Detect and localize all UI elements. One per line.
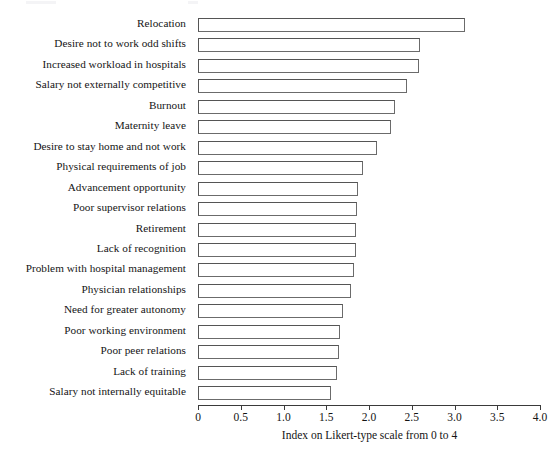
x-tick-label: 2.0 (349, 410, 389, 425)
bar-category-label: Burnout (0, 98, 186, 112)
bar-row: Maternity leave (0, 117, 559, 137)
bar-category-label: Poor supervisor relations (0, 200, 186, 214)
bar-row: Lack of training (0, 363, 559, 383)
bar (198, 366, 337, 380)
bar-row: Burnout (0, 97, 559, 117)
bar (198, 120, 391, 134)
bar-category-label: Physical requirements of job (0, 159, 186, 173)
bar (198, 243, 356, 257)
x-tick-label: 0.5 (221, 410, 261, 425)
bar-row: Physical requirements of job (0, 158, 559, 178)
bar (198, 100, 395, 114)
x-tick-label: 3.5 (477, 410, 517, 425)
x-tick-label: 4.0 (520, 410, 559, 425)
bar-row: Poor peer relations (0, 342, 559, 362)
x-tick-label: 2.5 (392, 410, 432, 425)
bar (198, 182, 358, 196)
bar (198, 263, 354, 277)
bar (198, 161, 363, 175)
bar-category-label: Problem with hospital management (0, 261, 186, 275)
bar (198, 345, 339, 359)
bar-category-label: Poor peer relations (0, 343, 186, 357)
x-tick-label: 1.5 (306, 410, 346, 425)
bar-row: Physician relationships (0, 281, 559, 301)
bar-category-label: Desire not to work odd shifts (0, 36, 186, 50)
bar (198, 141, 377, 155)
bar-category-label: Lack of training (0, 364, 186, 378)
bar (198, 59, 419, 73)
bar-category-label: Advancement opportunity (0, 180, 186, 194)
bar (198, 202, 357, 216)
bar-row: Salary not externally competitive (0, 76, 559, 96)
bar (198, 284, 351, 298)
bar (198, 325, 340, 339)
bar-row: Problem with hospital management (0, 260, 559, 280)
bar-category-label: Salary not internally equitable (0, 384, 186, 398)
bar-row: Lack of recognition (0, 240, 559, 260)
bar (198, 18, 465, 32)
bar-category-label: Poor working environment (0, 323, 186, 337)
bar-category-label: Retirement (0, 221, 186, 235)
bar-row: Need for greater autonomy (0, 301, 559, 321)
x-tick-label: 0 (178, 410, 218, 425)
bar-row: Advancement opportunity (0, 179, 559, 199)
bar-row: Desire to stay home and not work (0, 138, 559, 158)
bar-row: Increased workload in hospitals (0, 56, 559, 76)
bar (198, 386, 331, 400)
bar-category-label: Lack of recognition (0, 241, 186, 255)
bar-category-label: Relocation (0, 16, 186, 30)
bar-row: Relocation (0, 15, 559, 35)
bar-row: Desire not to work odd shifts (0, 35, 559, 55)
bar-row: Poor supervisor relations (0, 199, 559, 219)
scan-artifact (188, 1, 198, 4)
x-tick-label: 3.0 (435, 410, 475, 425)
x-tick-label: 1.0 (264, 410, 304, 425)
horizontal-bar-chart: RelocationDesire not to work odd shiftsI… (0, 0, 559, 460)
bar-row: Poor working environment (0, 322, 559, 342)
bar-row: Retirement (0, 220, 559, 240)
bar (198, 38, 420, 52)
bar-category-label: Salary not externally competitive (0, 77, 186, 91)
bar-row: Salary not internally equitable (0, 383, 559, 403)
bar (198, 304, 343, 318)
bar (198, 79, 407, 93)
x-axis-title: Index on Likert-type scale from 0 to 4 (198, 428, 541, 443)
bar-category-label: Need for greater autonomy (0, 302, 186, 316)
bar-category-label: Desire to stay home and not work (0, 139, 186, 153)
bar-category-label: Increased workload in hospitals (0, 57, 186, 71)
bar (198, 223, 356, 237)
bar-category-label: Physician relationships (0, 282, 186, 296)
bar-category-label: Maternity leave (0, 118, 186, 132)
scan-artifact (26, 1, 56, 4)
